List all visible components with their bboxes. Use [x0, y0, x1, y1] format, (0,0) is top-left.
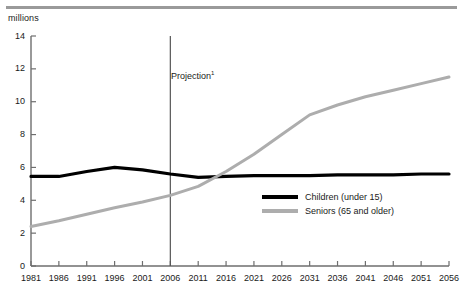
x-axis-tick-label: 2046: [378, 274, 408, 283]
x-axis-tick-label: 2011: [183, 274, 213, 283]
legend-item-seniors: Seniors (65 and older): [262, 204, 394, 218]
legend-swatch-seniors-icon: [262, 209, 298, 213]
x-axis-tick-label: 1996: [100, 274, 130, 283]
x-axis-tick-label: 2036: [323, 274, 353, 283]
x-axis-tick-label: 1981: [16, 274, 46, 283]
y-axis-tick-label: 0: [5, 262, 25, 271]
x-axis-tick-label: 2001: [127, 274, 157, 283]
x-axis-tick-label: 2051: [406, 274, 436, 283]
x-axis-tick-label: 2016: [211, 274, 241, 283]
series-line-children: [31, 167, 449, 177]
y-axis-tick-label: 10: [5, 97, 25, 106]
x-axis-tick-label: 1986: [44, 274, 74, 283]
legend-item-children: Children (under 15): [262, 190, 394, 204]
plot-area: [0, 0, 463, 292]
population-projection-chart: millions Projection1 02468101214 1981198…: [0, 0, 463, 292]
legend-label-seniors: Seniors (65 and older): [305, 204, 394, 218]
y-axis-tick-label: 4: [5, 196, 25, 205]
legend-swatch-children-icon: [262, 195, 298, 199]
y-axis-tick-label: 8: [5, 130, 25, 139]
x-axis-tick-label: 2031: [295, 274, 325, 283]
x-axis-tick-label: 2006: [155, 274, 185, 283]
x-axis-tick-label: 1991: [72, 274, 102, 283]
legend-label-children: Children (under 15): [305, 190, 383, 204]
x-axis-tick-label: 2026: [267, 274, 297, 283]
x-axis-tick-label: 2056: [434, 274, 463, 283]
x-axis-tick-label: 2021: [239, 274, 269, 283]
y-axis-tick-label: 2: [5, 229, 25, 238]
y-axis-tick-label: 6: [5, 163, 25, 172]
y-axis-tick-label: 12: [5, 64, 25, 73]
x-axis-tick-label: 2041: [350, 274, 380, 283]
chart-legend: Children (under 15) Seniors (65 and olde…: [262, 190, 394, 218]
y-axis-tick-label: 14: [5, 32, 25, 41]
